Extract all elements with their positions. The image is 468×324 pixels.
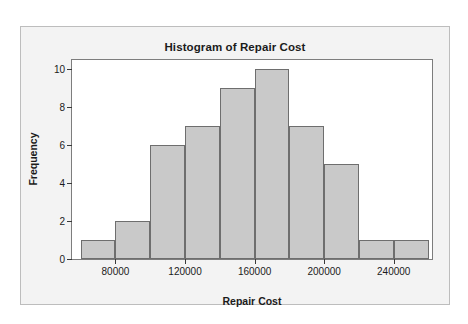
histogram-bar (150, 145, 185, 259)
x-axis-tick-label: 80000 (102, 266, 130, 277)
y-axis-tick (67, 145, 72, 146)
page-text-sliver (0, 0, 468, 13)
histogram-bar (185, 126, 220, 259)
plot-frame: 024681080000120000160000200000240000 (71, 59, 433, 260)
y-axis-tick (67, 107, 72, 108)
y-axis-title: Frequency (27, 132, 39, 185)
histogram-bar (115, 221, 150, 259)
chart-title: Histogram of Repair Cost (21, 41, 449, 53)
x-axis-tick (185, 259, 186, 264)
x-axis-tick (394, 259, 395, 264)
y-axis-tick-label: 8 (59, 102, 65, 113)
y-axis-tick (67, 221, 72, 222)
y-axis-tick (67, 183, 72, 184)
histogram-bar (255, 69, 290, 259)
x-axis-tick-label: 120000 (168, 266, 201, 277)
y-axis-tick-label: 10 (54, 64, 65, 75)
histogram-bar (289, 126, 324, 259)
histogram-bar (81, 240, 116, 259)
x-axis-tick-label: 160000 (238, 266, 271, 277)
x-axis-tick (115, 259, 116, 264)
y-axis-tick-label: 6 (59, 140, 65, 151)
x-axis-title: Repair Cost (71, 295, 433, 307)
histogram-bar (324, 164, 359, 259)
histogram-bar (359, 240, 394, 259)
x-axis-tick-label: 200000 (307, 266, 340, 277)
y-axis-tick (67, 69, 72, 70)
y-axis-tick (67, 259, 72, 260)
histogram-figure-panel: Histogram of Repair Cost Frequency Repai… (20, 26, 450, 305)
histogram-bar (220, 88, 255, 259)
y-axis-tick-label: 4 (59, 178, 65, 189)
x-axis-tick (255, 259, 256, 264)
y-axis-tick-label: 2 (59, 216, 65, 227)
x-axis-tick-label: 240000 (377, 266, 410, 277)
histogram-bar (394, 240, 429, 259)
x-axis-tick (324, 259, 325, 264)
plot-area: 024681080000120000160000200000240000 (72, 60, 432, 259)
y-axis-tick-label: 0 (59, 254, 65, 265)
